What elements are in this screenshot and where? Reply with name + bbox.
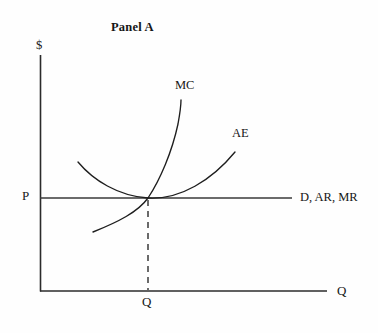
average-expense-curve [78,152,235,198]
demand-curve-label: D, AR, MR [300,191,358,204]
marginal-cost-curve-label: MC [175,79,194,92]
plot-canvas [0,0,378,333]
price-axis-marker: P [22,189,29,202]
quantity-axis-marker: Q [142,295,151,308]
y-axis-label: $ [36,39,42,52]
x-axis-label: Q [337,284,346,297]
economics-diagram-panel-a: Panel A $ Q P Q MC AE D, AR, MR [0,0,378,333]
marginal-cost-curve [93,100,181,232]
average-expense-curve-label: AE [232,127,249,140]
page-title: Panel A [111,21,154,34]
